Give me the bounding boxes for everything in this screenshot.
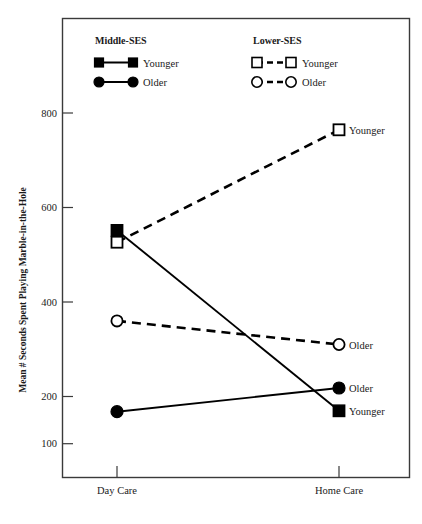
legend-marker-open-circle-b [286, 77, 296, 87]
legend-marker-filled-circle-a [94, 77, 104, 87]
marker-open-square-lower-younger-homecare [334, 124, 345, 135]
legend-marker-open-circle-a [252, 77, 262, 87]
y-tick-label-400: 400 [41, 297, 57, 308]
legend-marker-filled-square-b [129, 58, 138, 67]
point-label-lower-older: Older [349, 340, 373, 351]
y-tick-label-600: 600 [41, 202, 57, 213]
legend-marker-open-square-b [286, 58, 296, 68]
legend-label-lower-younger: Younger [302, 58, 338, 69]
legend-marker-open-square-a [252, 58, 262, 68]
legend-title-lower-ses: Lower-SES [253, 35, 302, 46]
point-label-middle-older: Older [349, 383, 373, 394]
marker-open-square-lower-younger-daycare [112, 237, 123, 248]
x-tick-label-home-care: Home Care [315, 485, 363, 496]
legend-label-middle-older: Older [143, 77, 167, 88]
x-tick-label-day-care: Day Care [97, 485, 137, 496]
legend-label-middle-younger: Younger [143, 58, 179, 69]
legend-label-lower-older: Older [302, 77, 326, 88]
marker-filled-square-middle-younger-daycare [111, 225, 122, 236]
point-label-middle-younger: Younger [349, 406, 385, 417]
marker-open-circle-lower-older-daycare [111, 315, 122, 326]
y-tick-label-100: 100 [41, 438, 57, 449]
legend-marker-filled-circle-b [128, 77, 138, 87]
marker-open-circle-lower-older-homecare [333, 339, 344, 350]
y-tick-label-200: 200 [41, 391, 57, 402]
legend-marker-filled-square-a [95, 58, 104, 67]
legend-title-middle-ses: Middle-SES [95, 35, 147, 46]
y-tick-label-800: 800 [41, 108, 57, 119]
y-axis-title: Mean # Seconds Spent Playing Marble-in-t… [18, 187, 28, 393]
point-label-lower-younger: Younger [349, 125, 385, 136]
marker-filled-square-middle-younger-homecare [333, 405, 344, 416]
figure-container: Mean # Seconds Spent Playing Marble-in-t… [0, 0, 422, 524]
line-chart: Mean # Seconds Spent Playing Marble-in-t… [0, 0, 422, 524]
marker-filled-circle-middle-older-homecare [333, 382, 345, 394]
marker-filled-circle-middle-older-daycare [111, 406, 123, 418]
